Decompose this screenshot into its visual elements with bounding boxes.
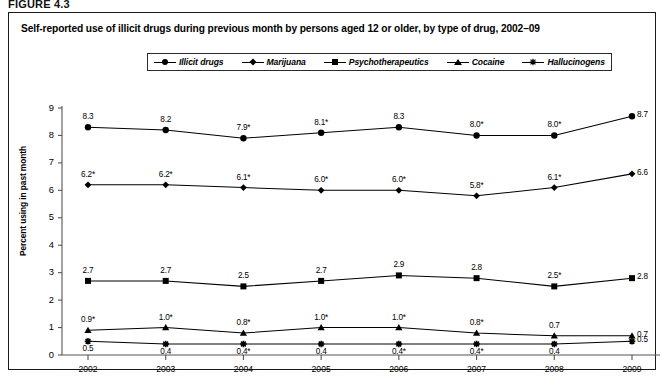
data-label: 0.4* [382, 347, 416, 356]
data-label: 2.5 [226, 271, 260, 280]
x-tick-label: 2005 [301, 364, 341, 374]
data-label: 8.0* [537, 120, 571, 129]
data-label: 6.2* [149, 170, 183, 179]
data-label: 6.0* [304, 175, 338, 184]
y-tick-label: 0 [38, 349, 54, 360]
data-label: 1.0* [304, 313, 338, 322]
data-label: 0.7 [537, 321, 571, 330]
x-tick-label: 2006 [379, 364, 419, 374]
data-label: 7.9* [226, 123, 260, 132]
x-tick-label: 2007 [457, 364, 497, 374]
plot-area: Percent using in past month 012345678920… [0, 0, 665, 381]
data-point-marker [240, 184, 247, 191]
data-label: 0.8* [226, 318, 260, 327]
y-tick-label: 8 [38, 129, 54, 140]
data-point-marker [318, 130, 324, 136]
data-point-marker [629, 113, 635, 119]
data-label: 0.9* [71, 315, 105, 324]
data-label: 1.0* [382, 313, 416, 322]
data-label: 0.4 [149, 347, 183, 356]
y-tick-label: 5 [38, 211, 54, 222]
data-label: 0.8* [460, 318, 494, 327]
data-label: 8.3 [71, 112, 105, 121]
data-label: 2.8 [637, 272, 663, 281]
data-label: 8.7 [637, 110, 663, 119]
data-label: 0.4* [226, 347, 260, 356]
y-tick-label: 1 [38, 321, 54, 332]
data-point-marker [629, 275, 635, 281]
data-point-marker [474, 275, 480, 281]
data-point-marker [551, 132, 557, 138]
y-tick-label: 6 [38, 184, 54, 195]
data-point-marker [629, 338, 636, 345]
data-point-marker [395, 187, 402, 194]
data-point-marker [473, 192, 480, 199]
data-label: 5.8* [460, 181, 494, 190]
data-label: 0.5 [71, 344, 105, 353]
data-point-marker [85, 278, 91, 284]
data-label: 2.7 [149, 266, 183, 275]
y-tick-label: 9 [38, 102, 54, 113]
data-label: 6.2* [71, 170, 105, 179]
y-tick-label: 4 [38, 239, 54, 250]
data-label: 6.0* [382, 175, 416, 184]
data-label: 8.1* [304, 118, 338, 127]
x-tick-label: 2009 [612, 364, 652, 374]
data-point-marker [240, 283, 246, 289]
data-point-marker [318, 187, 325, 194]
y-tick-label: 7 [38, 156, 54, 167]
data-point-marker [85, 181, 92, 188]
data-point-marker [163, 278, 169, 284]
data-label: 2.7 [71, 266, 105, 275]
data-label: 1.0* [149, 313, 183, 322]
data-label: 6.1* [226, 173, 260, 182]
series-line-hallucinogens [88, 341, 632, 344]
data-point-marker [396, 124, 402, 130]
data-label: 8.2 [149, 115, 183, 124]
data-label: 0.5 [637, 335, 663, 344]
data-point-marker [551, 283, 557, 289]
data-point-marker [240, 135, 246, 141]
data-point-marker [629, 170, 636, 177]
y-tick-label: 3 [38, 266, 54, 277]
data-label: 0.4 [304, 347, 338, 356]
data-point-marker [318, 278, 324, 284]
data-label: 0.4 [537, 347, 571, 356]
data-label: 6.6 [637, 168, 663, 177]
y-tick-label: 2 [38, 294, 54, 305]
data-point-marker [162, 324, 169, 330]
data-label: 8.0* [460, 120, 494, 129]
data-point-marker [162, 181, 169, 188]
data-label: 2.7 [304, 266, 338, 275]
data-label: 2.9 [382, 260, 416, 269]
data-label: 0.4* [460, 347, 494, 356]
data-label: 8.3 [382, 112, 416, 121]
x-tick-label: 2003 [146, 364, 186, 374]
x-tick-label: 2002 [68, 364, 108, 374]
data-point-marker [473, 132, 479, 138]
data-point-marker [163, 127, 169, 133]
data-point-marker [551, 184, 558, 191]
data-point-marker [85, 124, 91, 130]
data-label: 2.8 [460, 263, 494, 272]
x-tick-label: 2004 [223, 364, 263, 374]
data-label: 6.1* [537, 173, 571, 182]
data-label: 2.5* [537, 271, 571, 280]
x-tick-label: 2008 [534, 364, 574, 374]
data-point-marker [396, 272, 402, 278]
